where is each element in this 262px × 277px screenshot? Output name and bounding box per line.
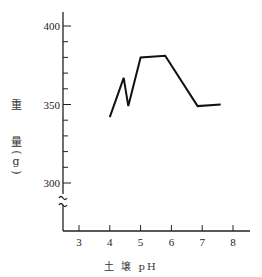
x-tick-label: 8 xyxy=(230,236,236,248)
x-tick-label: 3 xyxy=(76,236,82,248)
line-chart: 300350400345678 xyxy=(0,0,262,277)
x-tick-label: 6 xyxy=(169,236,175,248)
y-label-char: ) xyxy=(10,163,23,183)
y-tick-label: 350 xyxy=(44,99,61,111)
data-line xyxy=(110,56,221,117)
x-tick-label: 7 xyxy=(199,236,205,248)
x-tick-label: 4 xyxy=(107,236,113,248)
tick-labels: 300350400345678 xyxy=(44,20,237,248)
x-axis-label: 土 壌 pH xyxy=(0,258,262,273)
y-tick-label: 400 xyxy=(44,20,61,32)
axis-break-icon xyxy=(59,197,67,200)
axes xyxy=(59,12,250,231)
y-label-char: 重 xyxy=(6,96,26,112)
x-tick-label: 5 xyxy=(138,236,144,248)
y-tick-label: 300 xyxy=(44,177,61,189)
